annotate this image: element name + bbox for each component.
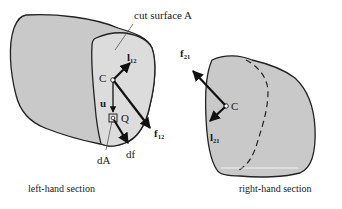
da-label: dA <box>97 154 111 166</box>
centroid-left-label: C <box>99 72 106 84</box>
right-hand-section: C f21 l21 right-hand section <box>180 47 315 194</box>
free-body-diagram: cut surface A C l12 f12 u Q df dA left-h… <box>0 0 342 209</box>
df-label: df <box>126 148 136 160</box>
cut-surface-a <box>92 33 155 146</box>
q-label: Q <box>121 112 129 124</box>
left-section-label: left-hand section <box>28 183 95 194</box>
point-q <box>111 116 115 120</box>
left-hand-section: cut surface A C l12 f12 u Q df dA left-h… <box>10 9 192 194</box>
f21-label: f21 <box>180 47 190 60</box>
cut-surface-label: cut surface A <box>134 9 192 21</box>
right-section-label: right-hand section <box>239 183 311 194</box>
f12-label: f12 <box>154 127 164 140</box>
right-body-shape <box>206 56 316 177</box>
centroid-right-label: C <box>231 100 238 112</box>
u-label: u <box>100 97 106 109</box>
